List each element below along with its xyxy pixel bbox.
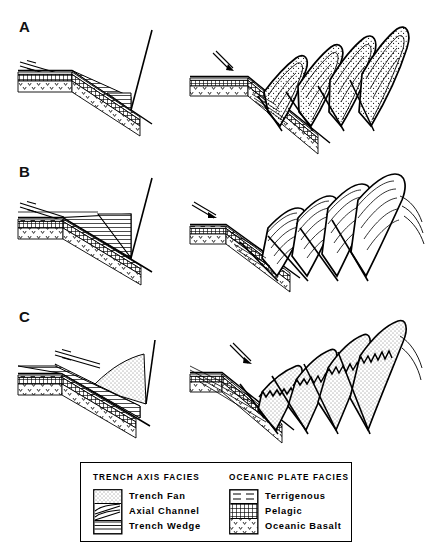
panel-label-a: A [19,18,30,35]
legend-label-trench-fan: Trench Fan [129,491,186,501]
legend-label-pelagic: Pelagic [265,506,302,516]
legend-box: TRENCH AXIS FACIES OCEANIC PLATE FACIES [80,462,352,542]
legend-pattern-trench-fan [95,491,122,504]
legend-label-oceanic-basalt: Oceanic Basalt [265,521,341,531]
legend-swatch-trench-axis [93,489,123,535]
legend-header-oceanic-plate: OCEANIC PLATE FACIES [229,473,349,482]
figure-canvas: A B C TRENCH AXIS FACIES OCEANIC PLATE F… [0,0,429,556]
oceanic-plate-flat-a-right [190,78,248,96]
legend-label-axial-channel: Axial Channel [129,506,200,516]
legend-header-trench-axis: TRENCH AXIS FACIES [93,473,200,482]
oceanic-plate-flat-a [18,72,72,92]
oceanic-plate-flat-b [18,219,63,239]
oceanic-plate-flat-b-right [190,226,226,244]
oceanic-plate-flat-c [18,375,62,395]
legend-pattern-oceanic-basalt [231,519,258,533]
oceanic-plate-flat-c-right [190,374,222,392]
legend-pattern-pelagic [231,504,258,518]
legend-label-trench-wedge: Trench Wedge [129,521,201,531]
panel-label-c: C [19,308,30,325]
panel-label-b: B [19,163,30,180]
legend-swatch-oceanic-plate [229,489,259,535]
legend-label-terrigenous: Terrigenous [265,491,326,501]
